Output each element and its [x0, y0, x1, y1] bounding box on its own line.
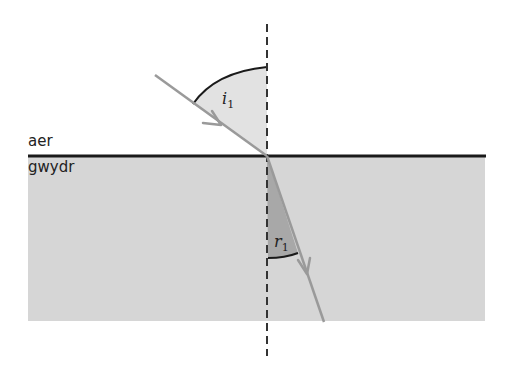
glass-label: gwydr	[28, 158, 74, 176]
air-label: aer	[28, 132, 53, 150]
glass-region	[28, 157, 485, 321]
